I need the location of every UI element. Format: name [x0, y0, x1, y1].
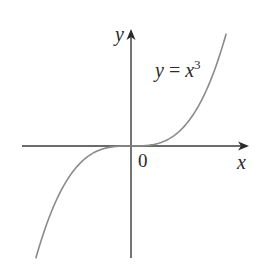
equation-lhs: y [155, 59, 164, 81]
equation-base: x [185, 59, 194, 81]
equation-equals: = [164, 59, 185, 81]
equation-exponent: 3 [194, 57, 201, 72]
y-axis-label: y [115, 24, 124, 44]
equation-label: y = x3 [155, 60, 201, 80]
plot-area [0, 0, 268, 268]
x-axis-label: x [237, 152, 246, 172]
origin-label: 0 [138, 151, 148, 170]
cubic-function-graph: y x 0 y = x3 [0, 0, 268, 268]
